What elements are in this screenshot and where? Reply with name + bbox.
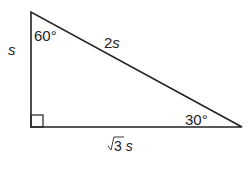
base-variable: s [126, 138, 133, 154]
top-angle-label: 60° [34, 28, 57, 43]
right-angle-marker [31, 115, 43, 127]
triangle-outline [31, 12, 242, 127]
hypotenuse-label: 2s [104, 35, 120, 50]
left-side-label: s [8, 42, 16, 57]
triangle-diagram: s 60° 2s 30° 3 s [0, 0, 250, 170]
base-radicand: 3 [114, 138, 122, 154]
right-angle-label: 30° [185, 112, 208, 127]
base-label: 3 s [114, 139, 133, 153]
hypotenuse-variable: s [112, 34, 120, 51]
